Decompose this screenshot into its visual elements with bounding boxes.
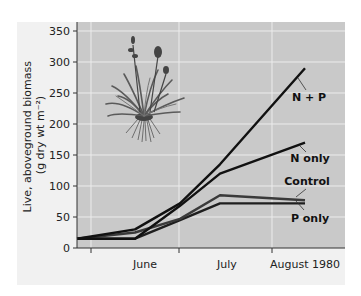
y-axis-title-line2: (g dry wt m⁻²) xyxy=(34,96,47,174)
biomass-line-chart: 050100150200250300350 JuneJulyAugust 198… xyxy=(0,0,361,296)
y-tick-label: 350 xyxy=(49,25,70,38)
x-tick-label: June xyxy=(132,258,157,271)
y-tick-label: 250 xyxy=(49,87,70,100)
series-label: N + P xyxy=(292,91,326,104)
y-tick-label: 100 xyxy=(49,180,70,193)
y-tick-label: 200 xyxy=(49,118,70,131)
y-axis-title-line1: Live, aboveground biomass xyxy=(21,61,34,213)
series-label: N only xyxy=(290,152,329,165)
x-tick-label: July xyxy=(216,258,237,271)
series-label: P only xyxy=(291,212,329,225)
y-tick-label: 50 xyxy=(56,211,70,224)
y-tick-label: 300 xyxy=(49,56,70,69)
y-tick-label: 0 xyxy=(63,242,70,255)
y-tick-label: 150 xyxy=(49,149,70,162)
x-tick-label: August 1980 xyxy=(270,258,340,271)
series-label: Control xyxy=(284,175,329,188)
